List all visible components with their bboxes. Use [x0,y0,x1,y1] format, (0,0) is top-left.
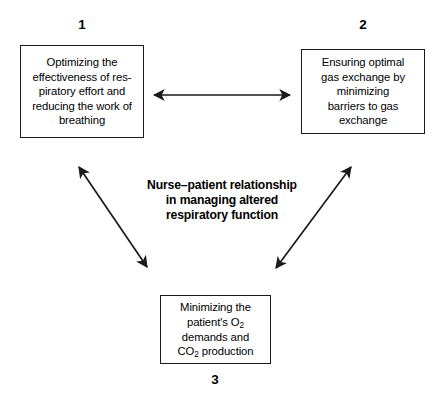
center-caption-line-2: in managing altered [166,193,278,207]
respiratory-function-relationship-diagram: 1 Optimizing theeffectiveness of res-pir… [0,0,444,405]
center-caption-line-3: respiratory function [166,208,278,222]
node-box-2: Ensuring optimalgas exchange byminimizin… [301,49,425,134]
center-caption: Nurse–patient relationship in managing a… [102,178,342,224]
center-caption-line-1: Nurse–patient relationship [147,178,297,192]
node-number-2: 2 [351,17,375,32]
node-box-1: Optimizing theeffectiveness of res-pirat… [20,45,144,138]
node-box-3-text: Minimizing thepatient's O2demands andCO2… [175,300,257,358]
node-number-1: 1 [70,17,94,32]
node-box-2-text: Ensuring optimalgas exchange byminimizin… [318,55,408,128]
node-number-3: 3 [203,372,227,387]
node-box-1-text: Optimizing theeffectiveness of res-pirat… [29,55,135,128]
node-box-3: Minimizing thepatient's O2demands andCO2… [160,295,271,364]
